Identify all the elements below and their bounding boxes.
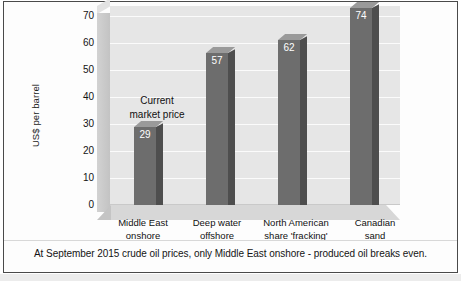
y-axis-tick-labels: 70 60 50 40 30 20 10 0 [66,2,94,214]
y-tick-60: 60 [66,38,94,48]
x-label-middle-east-onshore: Middle East onshore [104,217,182,242]
x-label-line-1: Canadian [340,217,410,230]
bar-canadian-sand[interactable]: 74 [350,6,379,205]
annotation-line-2: market price [116,108,198,122]
scan-edge-shadow [0,274,461,281]
bar-value-label: 74 [350,11,372,21]
figure-container: US$ per barrel 70 60 50 40 30 20 10 0 [0,0,461,281]
y-tick-70: 70 [66,11,94,21]
figure-caption: At September 2015 crude oil prices, only… [4,248,457,259]
bar-front-face [206,53,228,205]
bar-chart: US$ per barrel 70 60 50 40 30 20 10 0 [4,2,457,236]
y-tick-30: 30 [66,119,94,129]
bar-side-face [228,53,235,205]
caption-divider [4,240,457,241]
y-tick-10: 10 [66,173,94,183]
bar-value-label: 57 [206,56,228,66]
bar-north-american-fracking[interactable]: 62 [278,6,307,205]
y-axis-title: US$ per barrel [30,61,41,171]
x-label-line-1: Middle East [104,217,182,230]
bar-deep-water-offshore[interactable]: 57 [206,6,235,205]
x-label-line-1: Deep water [180,217,254,230]
plot-wall-left-bevel [97,0,110,14]
y-tick-40: 40 [66,92,94,102]
bar-front-face [350,8,372,205]
x-axis-category-labels: Middle East onshore Deep water offshore … [104,217,414,247]
bar-front-face [278,40,300,205]
bar-side-face [300,40,307,205]
x-label-north-american-fracking: North American share 'fracking' [250,217,342,242]
annotation-line-1: Current [116,94,198,108]
bar-side-face [156,127,163,205]
y-tick-50: 50 [66,65,94,75]
y-tick-0: 0 [66,200,94,210]
x-label-deep-water-offshore: Deep water offshore [180,217,254,242]
bar-value-label: 29 [134,130,156,140]
y-tick-20: 20 [66,146,94,156]
bar-side-face [372,8,379,205]
x-label-line-1: North American [250,217,342,230]
bar-value-label: 62 [278,43,300,53]
plot-wall-left [97,13,110,212]
annotation-current-market-price: Current market price [116,94,198,122]
x-label-canadian-sand: Canadian sand [340,217,410,242]
